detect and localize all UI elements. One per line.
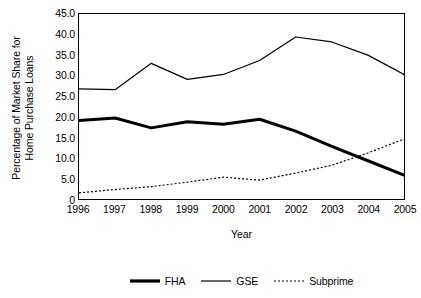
legend-item-gse: GSE [201,276,258,287]
y-axis-tick-label: 40.0 [44,29,75,40]
legend-swatch-subprime-icon [274,276,304,286]
y-axis-tick-label: 20.0 [44,112,75,123]
x-axis-tick-label: 2003 [315,203,349,216]
legend-item-subprime: Subprime [274,276,353,287]
x-axis-tick-label: 1998 [134,203,168,216]
y-axis-tick-label: 30.0 [44,70,75,81]
y-axis-tick-label: 25.0 [44,91,75,102]
x-axis-tick-label: 1997 [97,203,131,216]
x-axis-tick-labels: 1996199719981999200020012002200320042005 [78,203,405,219]
legend-item-fha: FHA [130,276,186,287]
series-line-subprime [79,139,404,193]
series-line-gse [79,37,404,90]
y-axis-title-line-1: Percentage of Market Share for [10,36,23,180]
y-axis-title-line-2: Home Purchase Loans [23,36,36,180]
plot-lines [79,14,404,199]
legend-label-fha: FHA [165,276,186,287]
y-axis-tick-label: 10.0 [44,153,75,164]
x-axis-title: Year [78,228,405,241]
legend-label-subprime: Subprime [309,276,353,287]
x-axis-tick-label: 1996 [61,203,95,216]
y-axis-tick-label: 5.0 [44,174,75,185]
x-axis-tick-label: 2001 [243,203,277,216]
y-axis-tick-labels: 45.040.035.030.025.020.015.010.05.00 [44,13,75,200]
legend-swatch-fha-icon [130,276,160,286]
plot-area [78,13,405,200]
y-axis-tick-label: 45.0 [44,8,75,19]
x-axis-tick-label: 2002 [279,203,313,216]
x-axis-tick-label: 2000 [206,203,240,216]
legend-swatch-gse-icon [201,276,231,286]
chart-legend: FHA GSE Subprime [78,272,405,290]
series-line-fha [79,118,404,175]
y-axis-tick-label: 15.0 [44,132,75,143]
y-axis-title: Percentage of Market Share for Home Purc… [0,10,46,205]
x-axis-tick-label: 2004 [352,203,386,216]
x-axis-tick-label: 1999 [170,203,204,216]
legend-label-gse: GSE [236,276,258,287]
x-axis-tick-label: 2005 [388,203,421,216]
y-axis-tick-label: 35.0 [44,49,75,60]
